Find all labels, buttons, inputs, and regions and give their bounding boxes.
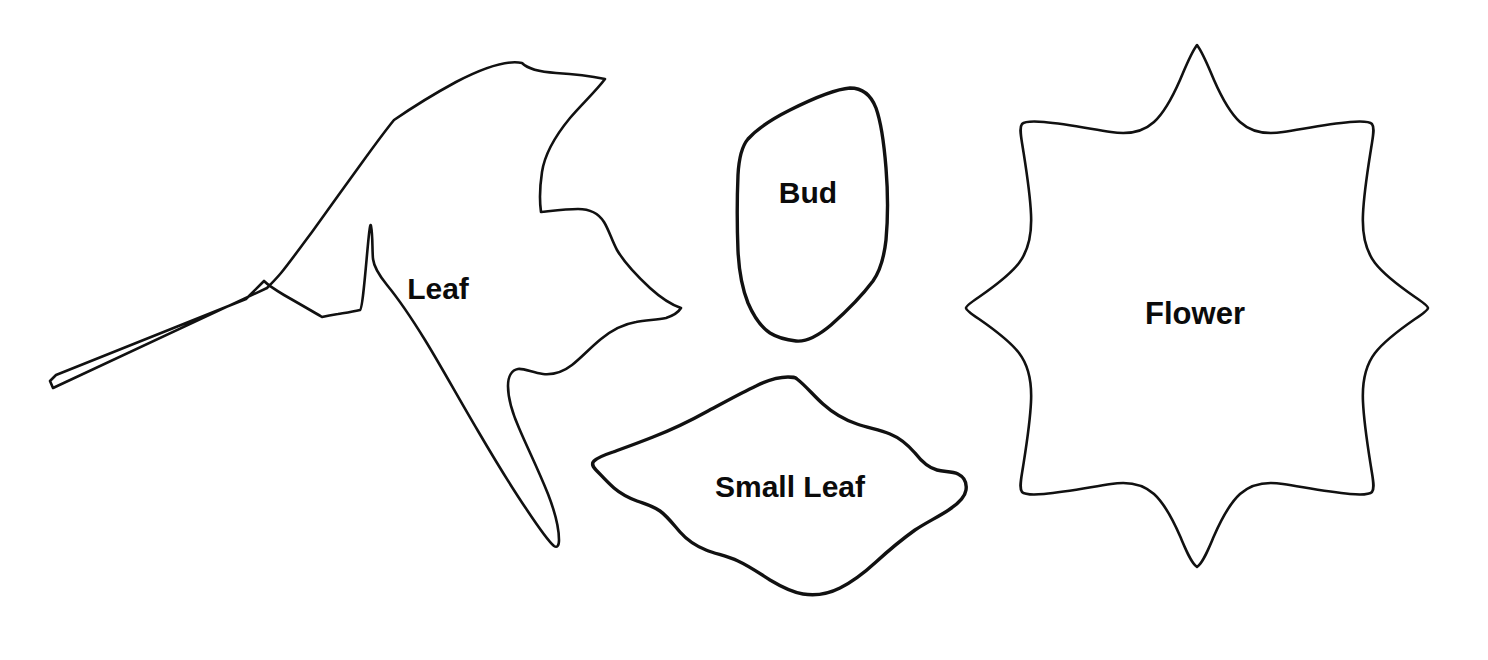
pattern-canvas: Leaf Bud Small Leaf Flower: [0, 0, 1488, 660]
small-leaf-label: Small Leaf: [715, 470, 866, 503]
flower-label: Flower: [1145, 296, 1245, 331]
pattern-sheet: Leaf Bud Small Leaf Flower: [0, 0, 1488, 660]
leaf-label: Leaf: [407, 272, 470, 305]
bud-label: Bud: [779, 176, 837, 209]
shape-flower[interactable]: Flower: [966, 45, 1428, 567]
